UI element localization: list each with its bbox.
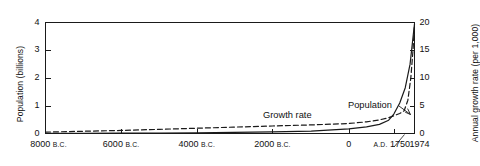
x-tick-2000-BC: 2000 B.C. [237,139,307,149]
y-tick-left-2: 2 [20,72,40,82]
series-line-growth-rate [46,25,415,132]
x-tick-1974: 1974 [385,139,455,149]
growth-rate-label: Growth rate [263,110,312,120]
axes-group [46,23,415,134]
population-label: Population [348,100,392,110]
y-tick-left-4: 4 [20,17,40,27]
series-group [46,24,415,133]
y-tick-right-15: 15 [420,44,444,54]
y-tick-left-1: 1 [20,100,40,110]
y-tick-right-10: 10 [420,72,444,82]
x-tick-8000-BC: 8000 B.C. [14,139,84,149]
series-line-population [46,24,415,133]
y-tick-right-0: 0 [420,128,444,138]
y-tick-right-5: 5 [420,100,444,110]
y-tick-left-3: 3 [20,44,40,54]
x-tick-4000-BC: 4000 B.C. [162,139,232,149]
y-tick-right-20: 20 [420,17,444,27]
x-tick-6000-BC: 6000 B.C. [86,139,156,149]
population-growth-chart: Population (billions) Annual growth rate… [0,0,480,166]
y-tick-left-0: 0 [20,128,40,138]
